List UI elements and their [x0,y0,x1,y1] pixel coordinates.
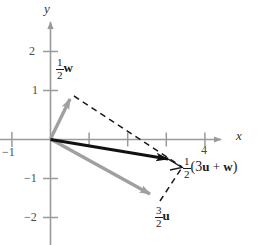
x-axis-label: x [236,129,242,142]
vector-label-resultant: 1 2 (3u + w) [183,156,237,180]
resultant-close-paren: ) [233,159,238,174]
y-tick-label--1: −1 [24,172,37,184]
fraction-one-half-resultant: 1 2 [183,156,191,180]
vector-label-three-halves-u: 3 2 u [155,205,170,229]
dashed-construction-lines [74,96,183,201]
dashed-edge-w-to-sum [74,96,182,167]
x-tick-label-4: 4 [201,144,207,156]
resultant-symbol-w: w [223,159,232,174]
dashed-arrowhead [168,159,182,170]
x-tick-label--1: −1 [2,146,15,158]
fraction-one-half: 1 2 [56,57,64,81]
diagram-canvas [0,0,259,245]
fraction-three-halves: 3 2 [155,205,163,229]
y-tick-label-1: 1 [32,84,38,96]
y-axis-label: y [44,2,50,15]
vector-symbol-u: u [163,208,170,223]
vector-label-half-w: 1 2 w [56,57,73,81]
y-tick-label--2: −2 [24,211,37,223]
dashed-edge-u-to-sum [160,166,183,201]
vector-symbol-w: w [64,60,73,75]
resultant-open-paren: (3 [191,159,203,174]
vector-half-w [51,99,71,139]
y-tick-label-2: 2 [29,45,35,57]
vector-diagram-figure: x y −1 4 2 1 −1 −2 1 2 w 3 2 u 1 2 (3u +… [0,0,259,245]
resultant-plus-sign: + [209,159,223,174]
